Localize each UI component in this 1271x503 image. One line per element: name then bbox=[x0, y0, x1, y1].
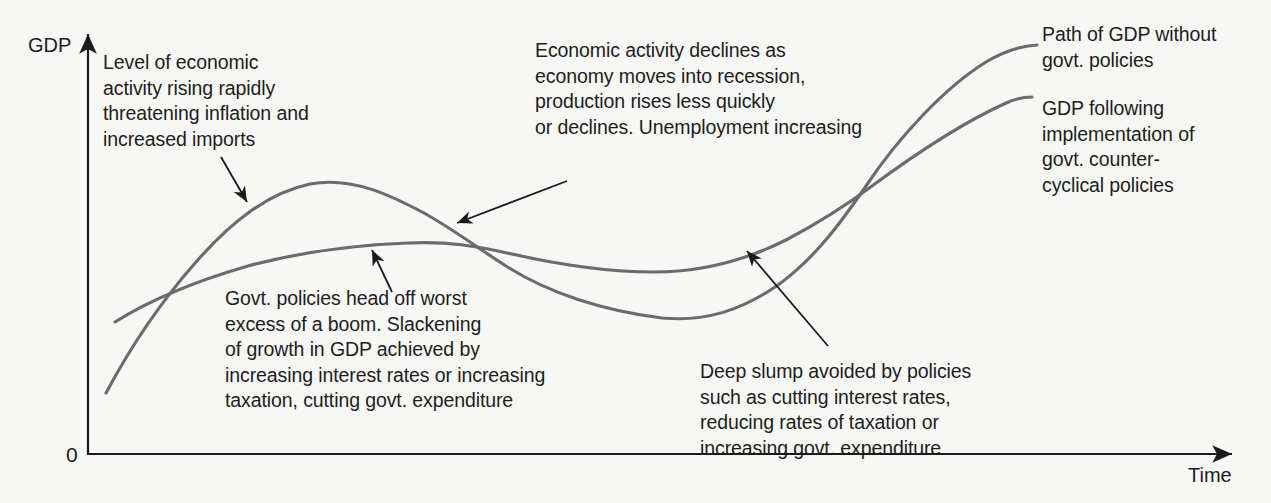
annotation-recession: Economic activity declines as economy mo… bbox=[535, 38, 955, 140]
annotation-policies: Govt. policies head off worst excess of … bbox=[225, 286, 625, 414]
x-axis-label: Time bbox=[1188, 463, 1232, 487]
curve-label-without-policies: Path of GDP without govt. policies bbox=[1042, 22, 1271, 73]
annotation-boom: Level of economic activity rising rapidl… bbox=[103, 50, 403, 152]
annotation-slump: Deep slump avoided by policies such as c… bbox=[700, 359, 1070, 461]
curve-label-with-policies: GDP following implementation of govt. co… bbox=[1042, 96, 1257, 198]
origin-label: 0 bbox=[66, 443, 78, 467]
recession-pointer-arrow bbox=[457, 181, 567, 223]
gdp-business-cycle-diagram: GDP Time 0 Level of economic activity ri… bbox=[0, 0, 1271, 503]
y-axis-label: GDP bbox=[28, 33, 71, 57]
boom-pointer-arrow bbox=[221, 157, 247, 202]
